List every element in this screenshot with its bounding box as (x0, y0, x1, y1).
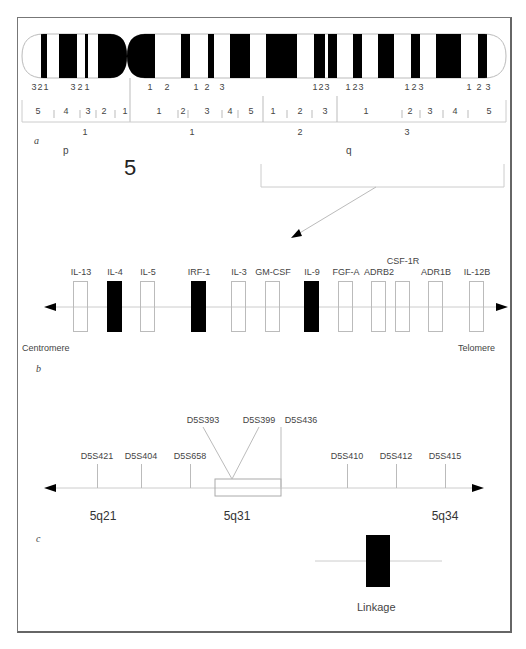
zoom-arrow-head (291, 229, 302, 238)
band-label: 2 (476, 82, 481, 92)
linkage-legend-label: Linkage (357, 601, 396, 613)
band-label: 3 (418, 82, 423, 92)
band-label: 3 (219, 82, 224, 92)
band-label: 2 (164, 82, 169, 92)
panel-label-a: a (34, 135, 39, 146)
subband-label: 4 (227, 106, 232, 116)
band-label: 1 (404, 82, 409, 92)
gene-box (395, 281, 410, 332)
subband-label: 2 (297, 106, 302, 116)
gene-box (231, 281, 246, 332)
gene-label: IL-12B (464, 267, 491, 277)
band-label: 1 (43, 82, 48, 92)
chromosome-number: 5 (124, 155, 136, 181)
subband-label: 1 (122, 106, 127, 116)
marker-label: D5S658 (174, 451, 207, 461)
region-label: 3 (404, 127, 409, 137)
marker-tick (97, 464, 98, 488)
gene-label: IL-3 (231, 267, 247, 277)
band-label: 3 (31, 82, 36, 92)
gene-box (140, 281, 155, 332)
subband-label: 5 (486, 106, 491, 116)
gene-label: ADRB2 (364, 267, 394, 277)
gene-label: IL-13 (71, 267, 92, 277)
subband-label: 3 (204, 106, 209, 116)
band-label: 2 (318, 82, 323, 92)
subband-label: 1 (156, 106, 161, 116)
interval-marker-label: D5S399 (243, 415, 276, 425)
band-label: 3 (70, 82, 75, 92)
band-label: 3 (485, 82, 490, 92)
subband-label: 4 (452, 106, 457, 116)
subband-label: 3 (322, 106, 327, 116)
linkage-legend-box (366, 535, 390, 587)
band-label: 2 (77, 82, 82, 92)
gene-label: FGF-A (333, 267, 360, 277)
band-label: 1 (466, 82, 471, 92)
panel-label-b: b (36, 363, 41, 374)
gene-box (469, 281, 484, 332)
gene-box (191, 281, 206, 332)
arrow-left-icon (44, 303, 56, 311)
position-label: 5q21 (90, 509, 117, 523)
arm-label-q: q (346, 145, 352, 156)
subband-label: 4 (63, 106, 68, 116)
subband-label: 2 (101, 106, 106, 116)
marker-label: D5S410 (331, 451, 364, 461)
gene-label: GM-CSF (255, 267, 291, 277)
panel-label-c: c (36, 533, 40, 544)
gene-box (338, 281, 353, 332)
gene-label: IRF-1 (188, 267, 211, 277)
band-label: 2 (37, 82, 42, 92)
band-label: 3 (358, 82, 363, 92)
gene-box (107, 281, 122, 332)
subband-label: 5 (248, 106, 253, 116)
marker-label: D5S412 (380, 451, 413, 461)
band-label: 2 (352, 82, 357, 92)
marker-label: D5S421 (81, 451, 114, 461)
telomere-label: Telomere (458, 343, 495, 353)
band-label: 1 (312, 82, 317, 92)
gene-box (73, 281, 88, 332)
gene-label: ADR1B (421, 267, 451, 277)
region-bracket (261, 164, 504, 187)
marker-tick (396, 464, 397, 488)
band-label: 1 (345, 82, 350, 92)
arrow-left-icon (44, 484, 56, 492)
region-label: 1 (82, 127, 87, 137)
subband-label: 2 (180, 106, 185, 116)
band-label: 1 (84, 82, 89, 92)
subband-label: 2 (407, 106, 412, 116)
subband-label: 3 (85, 106, 90, 116)
gene-label: CSF-1R (387, 256, 420, 266)
gene-box (428, 281, 443, 332)
gene-box (371, 281, 386, 332)
gene-label: IL-9 (304, 267, 320, 277)
region-label: 2 (297, 127, 302, 137)
interval-marker-label: D5S436 (285, 415, 318, 425)
subband-label: 1 (363, 106, 368, 116)
region-label: 1 (189, 127, 194, 137)
arrow-right-icon (496, 303, 508, 311)
gene-box (304, 281, 319, 332)
gene-box (265, 281, 280, 332)
gene-label: IL-4 (107, 267, 123, 277)
subband-ticks (54, 110, 468, 118)
position-label: 5q31 (224, 509, 251, 523)
arm-label-p: p (63, 145, 69, 156)
band-label: 1 (193, 82, 198, 92)
subband-label: 3 (427, 106, 432, 116)
centromere-label: Centromere (22, 343, 70, 353)
marker-tick (190, 464, 191, 488)
band-label: 2 (204, 82, 209, 92)
band-label: 1 (147, 82, 152, 92)
marker-label: D5S404 (125, 451, 158, 461)
subband-label: 5 (35, 106, 40, 116)
subband-label: 1 (270, 106, 275, 116)
interval-marker-label: D5S393 (187, 415, 220, 425)
marker-tick (141, 464, 142, 488)
arrow-right-icon (472, 484, 484, 492)
marker-tick (445, 464, 446, 488)
band-label: 3 (324, 82, 329, 92)
gene-label: IL-5 (140, 267, 156, 277)
